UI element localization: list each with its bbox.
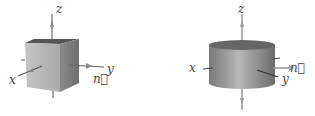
cube-figure: z x y n⃗ bbox=[0, 0, 160, 116]
x-label: x bbox=[189, 62, 196, 74]
n-label: n⃗ bbox=[93, 73, 108, 85]
z-label: z bbox=[56, 3, 62, 15]
cube-drawing bbox=[0, 0, 160, 116]
y-label: y bbox=[107, 63, 114, 75]
z-arrow-icon bbox=[240, 20, 244, 27]
z-label: z bbox=[238, 3, 244, 15]
cylinder-top bbox=[209, 40, 275, 50]
n-label: n⃗ bbox=[290, 62, 305, 74]
cylinder-drawing bbox=[160, 0, 315, 116]
cylinder-body bbox=[209, 45, 275, 89]
x-label: x bbox=[9, 74, 16, 86]
cylinder-figure: z x n⃗ y bbox=[160, 0, 315, 116]
normal-arrow-icon bbox=[86, 63, 92, 69]
y-label: y bbox=[282, 73, 289, 85]
z-arrow-icon bbox=[50, 20, 54, 27]
cube-front-face bbox=[25, 43, 60, 92]
